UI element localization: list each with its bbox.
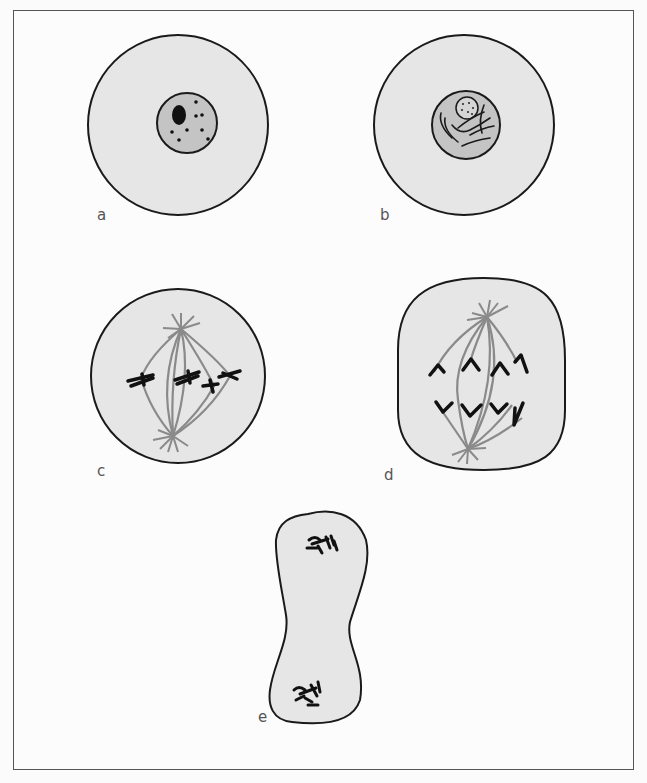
panel-label-c: c	[97, 462, 105, 480]
nucleolus	[172, 105, 186, 125]
nucleus	[157, 93, 217, 153]
panel-label-e: e	[258, 708, 267, 726]
panel-label-a: a	[97, 206, 106, 224]
panel-a-interphase-cell	[88, 35, 268, 215]
panel-label-b: b	[380, 206, 390, 224]
panel-d-anaphase-cell	[398, 278, 565, 470]
panel-b-prophase-cell	[374, 35, 554, 215]
panel-label-d: d	[384, 466, 394, 484]
mitosis-diagram	[0, 0, 647, 783]
panel-e-telophase-cell	[270, 512, 368, 724]
panel-c-metaphase-cell	[91, 289, 265, 463]
